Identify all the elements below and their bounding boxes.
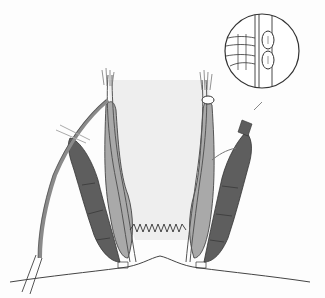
skin-line — [10, 256, 310, 282]
anal-canal-diagram — [0, 0, 325, 298]
right-ligature — [202, 96, 214, 104]
anatomical-figure — [0, 0, 325, 298]
probe — [22, 255, 42, 294]
magnified-inset — [225, 14, 299, 88]
